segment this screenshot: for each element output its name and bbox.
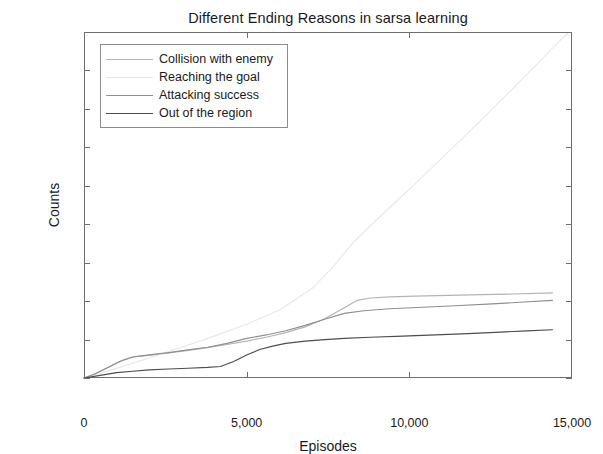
legend-item-label: Attacking success bbox=[159, 88, 259, 102]
y-tick-mark bbox=[84, 109, 90, 110]
series-line bbox=[84, 293, 552, 378]
legend-item[interactable]: Attacking success bbox=[106, 86, 281, 104]
legend-item-label: Reaching the goal bbox=[159, 70, 260, 84]
y-tick-mark-right bbox=[566, 224, 572, 225]
legend-item[interactable]: Reaching the goal bbox=[106, 68, 281, 86]
y-tick-mark-right bbox=[566, 186, 572, 187]
x-tick-label: 15,000 bbox=[553, 416, 591, 430]
legend-item-label: Out of the region bbox=[159, 106, 252, 120]
legend-item-label: Collision with enemy bbox=[159, 52, 273, 66]
legend-line-icon bbox=[106, 108, 153, 118]
legend-line-icon bbox=[106, 90, 153, 100]
chart-legend: Collision with enemyReaching the goalAtt… bbox=[100, 44, 288, 128]
x-tick-label: 5,000 bbox=[231, 416, 262, 430]
x-tick-mark-top bbox=[247, 32, 248, 38]
x-tick-mark-top bbox=[409, 32, 410, 38]
y-tick-mark bbox=[84, 301, 90, 302]
y-tick-mark-right bbox=[566, 70, 572, 71]
y-tick-mark-right bbox=[566, 301, 572, 302]
series-line bbox=[84, 300, 552, 378]
y-tick-mark bbox=[84, 340, 90, 341]
x-tick-label: 10,000 bbox=[390, 416, 428, 430]
y-tick-mark bbox=[84, 263, 90, 264]
y-axis-label: Counts bbox=[46, 183, 62, 227]
y-tick-mark bbox=[84, 70, 90, 71]
x-tick-label: 0 bbox=[81, 416, 88, 430]
y-tick-mark-right bbox=[566, 147, 572, 148]
x-axis-label: Episodes bbox=[84, 438, 572, 454]
y-tick-mark-right bbox=[566, 340, 572, 341]
y-tick-mark bbox=[84, 32, 90, 33]
y-tick-mark bbox=[84, 378, 90, 379]
y-tick-mark bbox=[84, 186, 90, 187]
y-tick-mark-right bbox=[566, 378, 572, 379]
x-tick-mark bbox=[409, 372, 410, 378]
legend-line-icon bbox=[106, 72, 153, 82]
y-tick-mark-right bbox=[566, 109, 572, 110]
y-tick-mark-right bbox=[566, 263, 572, 264]
y-tick-mark-right bbox=[566, 32, 572, 33]
legend-item[interactable]: Collision with enemy bbox=[106, 50, 281, 68]
chart-title: Different Ending Reasons in sarsa learni… bbox=[84, 10, 572, 26]
plot-area: 01,0002,0003,0004,0005,0006,0007,0008,00… bbox=[84, 32, 572, 378]
y-tick-mark bbox=[84, 224, 90, 225]
legend-line-icon bbox=[106, 54, 153, 64]
y-tick-mark bbox=[84, 147, 90, 148]
legend-item[interactable]: Out of the region bbox=[106, 104, 281, 122]
x-tick-mark bbox=[247, 372, 248, 378]
